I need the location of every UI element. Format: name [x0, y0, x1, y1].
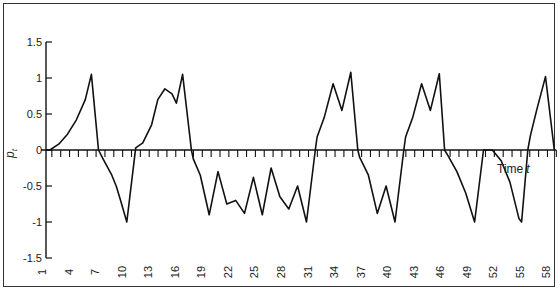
x-tick-label: 4 — [63, 269, 75, 275]
x-tick-label: 40 — [381, 266, 393, 278]
y-axis-label: pt — [3, 148, 19, 159]
y-tick-label: -1.5 — [23, 252, 42, 264]
x-tick-label: 49 — [461, 266, 473, 278]
x-tick-label: 28 — [275, 266, 287, 278]
line-chart: 1.510.50-0.5-1-1.5 147101316192225283134… — [0, 0, 560, 292]
y-tick-label: 1 — [36, 72, 42, 84]
x-tick-label: 22 — [222, 266, 234, 278]
x-tick-label: 7 — [89, 269, 101, 275]
y-tick-label: 0.5 — [27, 108, 42, 120]
y-tick-label: 1.5 — [27, 36, 42, 48]
x-tick-label: 10 — [116, 266, 128, 278]
y-tick-label: -0.5 — [23, 180, 42, 192]
x-tick-label: 46 — [434, 266, 446, 278]
x-tick-label: 34 — [328, 266, 340, 278]
series-line-p-t — [41, 72, 554, 222]
x-tick-label: 52 — [487, 266, 499, 278]
x-tick-label: 31 — [302, 266, 314, 278]
x-tick-label: 55 — [514, 266, 526, 278]
x-tick-label: 19 — [195, 266, 207, 278]
x-tick-label: 25 — [248, 266, 260, 278]
x-tick-label: 43 — [408, 266, 420, 278]
x-axis: 1471013161922252831343740434649525558 — [36, 150, 556, 278]
x-tick-label: 37 — [355, 266, 367, 278]
x-tick-label: 16 — [169, 266, 181, 278]
y-tick-label: -1 — [32, 216, 42, 228]
x-tick-label: 13 — [142, 266, 154, 278]
x-tick-label: 58 — [540, 266, 552, 278]
x-tick-label: 1 — [36, 269, 48, 275]
